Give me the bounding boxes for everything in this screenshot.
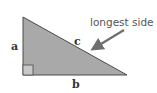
triangle-diagram: a b c longest side =	[0, 0, 157, 93]
longest-side-annotation: longest side =	[90, 16, 157, 28]
label-side-a: a	[11, 40, 18, 53]
arrow-icon	[96, 30, 124, 47]
label-side-c: c	[74, 35, 81, 48]
label-side-b: b	[72, 78, 80, 91]
right-angle-marker	[23, 65, 33, 75]
